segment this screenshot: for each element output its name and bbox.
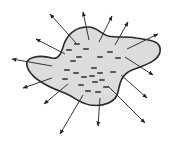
field-arrow-icon: [36, 39, 65, 54]
field-arrow-icon: [60, 95, 83, 134]
field-arrow-icon: [121, 75, 147, 98]
field-arrow-icon: [50, 14, 76, 43]
charged-conductor-diagram: [0, 0, 175, 142]
